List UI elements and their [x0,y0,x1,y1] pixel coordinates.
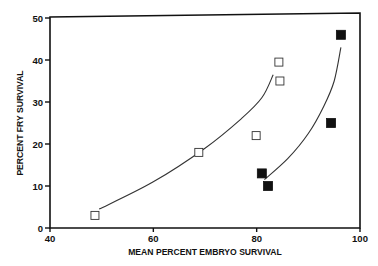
y-tick-label: 0 [38,223,43,234]
y-tick-label: 30 [32,97,43,108]
y-tick-label: 10 [32,181,43,192]
scatter-chart: 01020304050 406080100 MEAN PERCENT EMBRY… [0,0,378,266]
open-square-marker [252,132,260,140]
x-tick-label: 60 [148,233,159,244]
filled-square-marker [257,169,266,178]
y-tick-label: 40 [32,55,43,66]
open-square-marker [91,211,99,219]
x-tick-label: 100 [352,233,368,244]
y-tick-label: 50 [32,13,43,24]
y-tick-label: 20 [32,139,43,150]
x-axis-title: MEAN PERCENT EMBRYO SURVIVAL [128,247,282,257]
x-tick-label: 80 [251,233,262,244]
y-axis-title: PERCENT FRY SURVIVAL [15,70,25,175]
open-square-marker [276,77,284,85]
plot-frame [50,13,360,228]
filled-square-marker [336,30,345,39]
open-square-marker [195,148,203,156]
fit-curves [99,47,341,209]
open-series-fit-curve [99,75,273,209]
data-points [91,30,345,219]
filled-square-marker [264,182,273,191]
filled-square-marker [327,119,336,128]
y-axis-ticks: 01020304050 [32,13,50,234]
filled-series-fit-curve [264,47,341,179]
x-tick-label: 40 [45,233,56,244]
open-square-marker [275,58,283,66]
x-axis-ticks: 406080100 [45,228,368,244]
